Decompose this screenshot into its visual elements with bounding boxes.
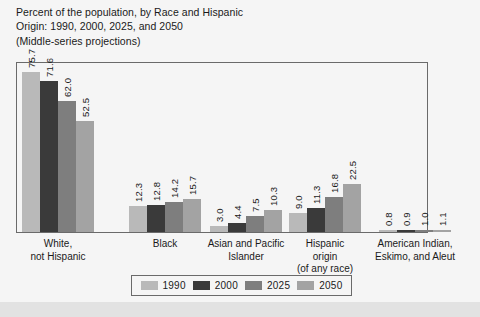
bar[interactable]: 0.8 xyxy=(379,230,397,232)
legend-swatch-icon xyxy=(297,281,314,290)
category-label-line: American Indian, xyxy=(345,238,480,251)
legend-label: 2000 xyxy=(215,280,238,291)
bar[interactable]: 16.8 xyxy=(325,197,343,232)
bar-value-label: 62.0 xyxy=(62,78,73,97)
category-label: American Indian,Eskimo, and Aleut xyxy=(345,238,480,263)
legend-label: 2025 xyxy=(267,280,290,291)
legend-item[interactable]: 1990 xyxy=(141,280,186,291)
bar[interactable]: 7.5 xyxy=(246,216,264,232)
chart-title-line-3: (Middle-series projections) xyxy=(16,34,436,48)
legend-item[interactable]: 2050 xyxy=(297,280,342,291)
bar-group: 3.04.47.510.3 xyxy=(210,63,282,232)
plot-area: 75.771.662.052.512.312.814.215.73.04.47.… xyxy=(17,63,427,232)
category-label-line: not Hispanic xyxy=(0,251,128,264)
bar[interactable]: 12.3 xyxy=(129,206,147,232)
bar-value-label: 0.8 xyxy=(383,213,394,227)
bar-value-label: 16.8 xyxy=(329,173,340,192)
bar-value-label: 1.1 xyxy=(437,212,448,226)
bar[interactable]: 22.5 xyxy=(343,184,361,232)
bar[interactable]: 1.1 xyxy=(433,230,451,232)
bar-group: 0.80.91.01.1 xyxy=(379,63,451,232)
bar-value-label: 75.7 xyxy=(26,49,37,68)
bar[interactable]: 9.0 xyxy=(289,213,307,232)
bar-value-label: 12.8 xyxy=(151,182,162,201)
legend-label: 2050 xyxy=(319,280,342,291)
bar[interactable]: 62.0 xyxy=(58,101,76,232)
bar-value-label: 4.4 xyxy=(232,205,243,219)
plot-frame: 75.771.662.052.512.312.814.215.73.04.47.… xyxy=(16,62,428,233)
bar[interactable]: 1.0 xyxy=(415,230,433,232)
bar-value-label: 52.5 xyxy=(80,98,91,117)
chart-title-line-1: Percent of the population, by Race and H… xyxy=(16,5,436,19)
bar-value-label: 7.5 xyxy=(250,198,261,212)
bar[interactable]: 3.0 xyxy=(210,226,228,232)
bar-value-label: 1.0 xyxy=(419,212,430,226)
legend-swatch-icon xyxy=(245,281,262,290)
bar-value-label: 15.7 xyxy=(187,176,198,195)
bar-group: 12.312.814.215.7 xyxy=(129,63,201,232)
bar-value-label: 9.0 xyxy=(293,195,304,209)
bar-value-label: 3.0 xyxy=(214,208,225,222)
bar[interactable]: 52.5 xyxy=(76,121,94,232)
bar-value-label: 11.3 xyxy=(311,186,322,205)
legend-item[interactable]: 2025 xyxy=(245,280,290,291)
bar-group: 9.011.316.822.5 xyxy=(289,63,361,232)
category-label-line: Eskimo, and Aleut xyxy=(345,251,480,264)
bar[interactable]: 12.8 xyxy=(147,205,165,232)
legend-swatch-icon xyxy=(141,281,158,290)
legend-label: 1990 xyxy=(163,280,186,291)
footer-band xyxy=(0,302,480,317)
bar-group: 75.771.662.052.5 xyxy=(22,63,94,232)
category-label-line: (of any race) xyxy=(255,263,395,276)
bar[interactable]: 71.6 xyxy=(40,81,58,232)
bar-value-label: 12.3 xyxy=(133,183,144,202)
bar[interactable]: 15.7 xyxy=(183,199,201,232)
chart-legend: 1990200020252050 xyxy=(131,275,352,296)
bar[interactable]: 4.4 xyxy=(228,223,246,232)
bar[interactable]: 11.3 xyxy=(307,208,325,232)
chart-title: Percent of the population, by Race and H… xyxy=(16,5,436,48)
bar[interactable]: 14.2 xyxy=(165,202,183,232)
bar-value-label: 0.9 xyxy=(401,212,412,226)
legend-swatch-icon xyxy=(193,281,210,290)
bar-value-label: 22.5 xyxy=(347,161,358,180)
bar-value-label: 71.6 xyxy=(44,57,55,76)
bar[interactable]: 75.7 xyxy=(22,72,40,232)
chart-page: Percent of the population, by Race and H… xyxy=(0,0,480,317)
bar-value-label: 10.3 xyxy=(268,187,279,206)
chart-title-line-2: Origin: 1990, 2000, 2025, and 2050 xyxy=(16,19,436,33)
bar[interactable]: 0.9 xyxy=(397,230,415,232)
bar[interactable]: 10.3 xyxy=(264,210,282,232)
bar-value-label: 14.2 xyxy=(169,179,180,198)
legend-item[interactable]: 2000 xyxy=(193,280,238,291)
